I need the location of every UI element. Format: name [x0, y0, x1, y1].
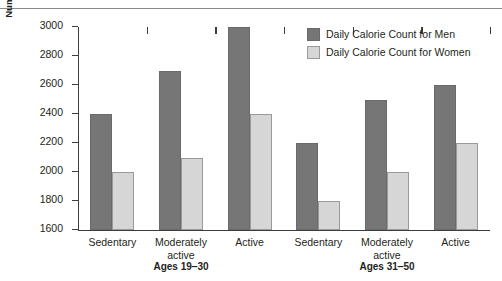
x-axis-category-label: Sedentary [78, 236, 147, 249]
x-axis-tick [78, 27, 79, 34]
bar-women [112, 172, 134, 230]
y-axis-tick: 2400 [72, 113, 78, 114]
x-axis-category-label: Moderately active [147, 236, 216, 261]
bar-men [365, 100, 387, 231]
y-axis-tick: 2800 [72, 55, 78, 56]
legend-swatch-men-icon [307, 28, 320, 41]
y-axis-tick-label: 2800 [40, 47, 63, 61]
y-axis-tick-label: 1800 [40, 192, 63, 206]
x-axis-category-label: Active [215, 236, 284, 249]
header-divider [0, 8, 502, 9]
legend-label-women: Daily Calorie Count for Women [326, 44, 471, 60]
x-axis-tick [147, 27, 148, 34]
y-axis-tick: 2000 [72, 171, 78, 172]
bar-women [456, 143, 478, 230]
x-axis-line [78, 230, 490, 231]
chart-legend: Daily Calorie Count for Men Daily Calori… [307, 26, 471, 62]
bar-men [296, 143, 318, 230]
y-axis-tick-label: 2400 [40, 105, 63, 119]
x-axis-category-label: Active [421, 236, 490, 249]
legend-item-men: Daily Calorie Count for Men [307, 26, 471, 42]
y-axis-tick-label: 2200 [40, 134, 63, 148]
x-axis-tick [490, 27, 491, 34]
legend-swatch-women-icon [307, 46, 320, 59]
x-axis-group-label: Ages 19‒30 [121, 261, 241, 272]
y-axis-tick: 2200 [72, 142, 78, 143]
bar-chart-figure: Number of Calories per Day 3000280026002… [0, 0, 502, 281]
x-axis-category-label: Moderately active [353, 236, 422, 261]
y-axis-tick: 1800 [72, 200, 78, 201]
bar-men [434, 85, 456, 230]
y-axis-title: Number of Calories per Day [2, 0, 16, 54]
bar-women [318, 201, 340, 230]
bar-women [387, 172, 409, 230]
x-axis-tick [215, 27, 216, 34]
y-axis-tick: 1600 [72, 229, 78, 230]
x-axis-group-label: Ages 31‒50 [327, 261, 447, 272]
y-axis-tick-label: 3000 [40, 18, 63, 32]
y-axis-tick: 2600 [72, 84, 78, 85]
y-axis-tick-label: 1600 [40, 221, 63, 235]
bar-men [90, 114, 112, 230]
y-axis-tick-label: 2600 [40, 76, 63, 90]
y-axis-tick-label: 2000 [40, 163, 63, 177]
bar-men [159, 71, 181, 231]
x-axis-category-label: Sedentary [284, 236, 353, 249]
x-axis-tick [284, 27, 285, 34]
bar-women [250, 114, 272, 230]
bar-women [181, 158, 203, 231]
bar-men [228, 27, 250, 230]
legend-item-women: Daily Calorie Count for Women [307, 44, 471, 60]
legend-label-men: Daily Calorie Count for Men [326, 26, 455, 42]
